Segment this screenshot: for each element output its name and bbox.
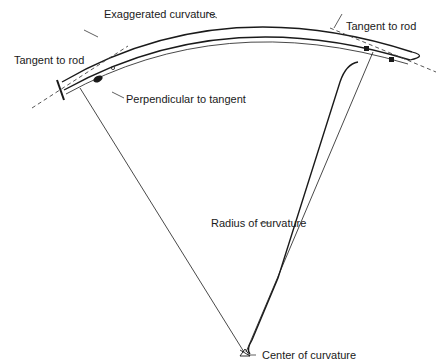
label-radius: Radius of curvature (211, 217, 306, 229)
label-tangent-left: Tangent to rod (14, 54, 84, 66)
label-center: Center of curvature (262, 349, 356, 361)
label-tangent-right: Tangent to rod (346, 20, 416, 32)
curved-rod (57, 27, 420, 100)
label-perpendicular: Perpendicular to tangent (126, 93, 246, 105)
curvature-diagram: Exaggerated curvature Tangent to rod Tan… (0, 0, 440, 361)
label-exaggerated-curvature: Exaggerated curvature (104, 8, 215, 20)
radius-bracket (248, 62, 358, 354)
